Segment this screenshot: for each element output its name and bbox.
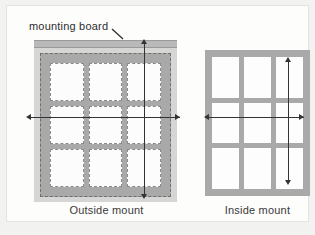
- inside-mount-height-arrow-down-icon: [285, 180, 291, 185]
- window-pane: [212, 103, 239, 144]
- outside-mount-width-dimension-line: [29, 117, 180, 118]
- inside-mount-width-arrow-right-icon: [299, 114, 304, 120]
- figure-container: mounting board: [0, 0, 315, 235]
- window-pane: [276, 103, 303, 144]
- inside-mount-width-arrow-left-icon: [204, 114, 209, 120]
- window-pane: [50, 149, 84, 187]
- outside-mount-caption: Outside mount: [35, 204, 178, 216]
- inside-mount-width-dimension-line: [207, 117, 304, 118]
- outside-mount-width-arrow-left-icon: [26, 114, 31, 120]
- mounting-board-annotation-label: mounting board: [29, 20, 108, 32]
- inside-mount-diagram: [205, 50, 310, 196]
- inside-mount-pane-grid: [212, 57, 303, 189]
- outside-mount-width-arrow-right-icon: [175, 114, 180, 120]
- inside-mount-caption: Inside mount: [205, 204, 310, 216]
- window-pane: [89, 149, 123, 187]
- outside-mount-height-arrow-up-icon: [141, 39, 147, 44]
- mounting-board: [34, 40, 177, 48]
- window-pane: [50, 63, 84, 101]
- window-pane: [50, 106, 84, 144]
- outside-mount-height-dimension-line: [144, 42, 145, 197]
- mounting-board-leader-line: [111, 28, 125, 40]
- outside-mount-diagram: [34, 40, 177, 202]
- window-pane: [276, 57, 303, 98]
- inside-mount-height-dimension-line: [288, 60, 289, 183]
- window-pane: [89, 63, 123, 101]
- window-pane: [244, 148, 271, 189]
- outside-mount-height-arrow-down-icon: [141, 194, 147, 199]
- window-pane: [212, 148, 239, 189]
- inside-mount-height-arrow-up-icon: [285, 57, 291, 62]
- window-pane: [89, 106, 123, 144]
- window-pane: [244, 57, 271, 98]
- window-pane: [244, 103, 271, 144]
- window-pane: [212, 57, 239, 98]
- figure-canvas: mounting board: [7, 6, 308, 221]
